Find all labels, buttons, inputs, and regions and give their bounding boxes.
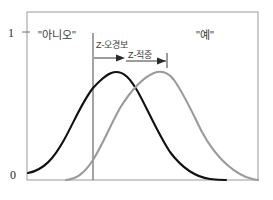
annotation-false-alarm: Z-오경보 bbox=[96, 38, 129, 51]
annotation-hit: Z-적중 bbox=[128, 48, 153, 61]
y-axis-label-bottom: 0 bbox=[10, 168, 16, 183]
noise-distribution-curve bbox=[28, 72, 226, 180]
region-label-yes: "예" bbox=[196, 26, 214, 42]
region-label-no: "아니오" bbox=[38, 26, 76, 42]
signal-distribution-curve bbox=[66, 72, 258, 180]
hit-arrow-head bbox=[157, 58, 166, 65]
false-alarm-arrow-head bbox=[116, 55, 125, 62]
signal-detection-figure: 1 0 "아니오" "예" Z-오경보 Z-적중 bbox=[0, 0, 273, 200]
y-axis-label-top: 1 bbox=[8, 26, 14, 41]
